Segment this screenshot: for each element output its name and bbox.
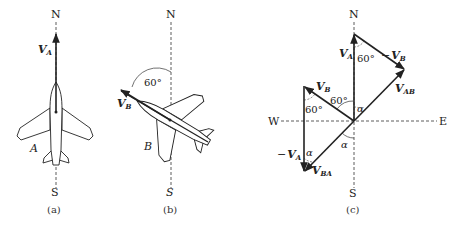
caption-b: (b) (163, 204, 177, 215)
south-label: S (166, 186, 174, 199)
vector-vba-label: VBA (312, 164, 332, 178)
angle-label-60-mid: 60° (330, 95, 348, 106)
north-label: N (349, 8, 359, 21)
angle-arc-left (304, 94, 315, 100)
north-label: N (166, 8, 176, 21)
north-label: N (51, 8, 61, 21)
angle-label-60-left: 60° (305, 104, 323, 115)
vector-vab-label: VAB (395, 82, 415, 96)
angle-label-60-top: 60° (357, 53, 375, 64)
caption-c: (c) (346, 204, 360, 215)
angle-arc-alpha-lower (342, 133, 354, 138)
angle-label-alpha-lower: α (341, 139, 348, 150)
aircraft-b-icon (118, 69, 228, 176)
velocity-a-label: VA (38, 43, 53, 57)
east-label: E (439, 115, 447, 128)
angle-label-alpha-left: α (306, 147, 313, 158)
caption-a: (a) (47, 204, 61, 215)
panel-a: N S VA A (a) (17, 8, 93, 215)
relative-velocity-diagram: N S VA A (a) N S (0, 0, 462, 227)
angle-arc-alpha-left (304, 158, 313, 162)
angle-label-alpha-upper: α (357, 103, 364, 114)
angle-arc-top (354, 41, 364, 47)
panel-c: N S W E 60° 60° 60° α α α VA −VB VAB VB (268, 8, 447, 215)
south-label: S (349, 187, 357, 200)
aircraft-a-label: A (29, 142, 38, 155)
aircraft-b-label: B (143, 140, 152, 153)
vector-neg-va-label: −VA (277, 148, 302, 162)
vector-va-label: VA (339, 47, 354, 61)
vector-vb-label: VB (316, 80, 331, 94)
aircraft-a-icon (17, 82, 93, 165)
angle-60-label: 60° (144, 77, 162, 88)
vector-neg-vb-label: −VB (381, 49, 406, 63)
panel-b: N S 60° VB B (b) (117, 8, 227, 215)
south-label: S (51, 186, 59, 199)
velocity-b-label: VB (117, 97, 132, 111)
west-label: W (268, 115, 280, 128)
